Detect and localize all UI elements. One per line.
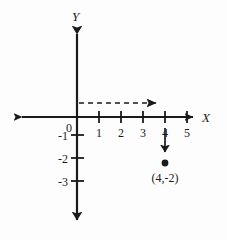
x-axis-label: X bbox=[201, 110, 211, 125]
y-tick-label-minus3: -3 bbox=[58, 175, 68, 189]
y-axis-label: Y bbox=[72, 9, 81, 24]
data-point-label: (4,-2) bbox=[152, 171, 179, 185]
origin-label: 0 bbox=[66, 121, 72, 135]
coordinate-plane-svg: 1 2 3 4 5 -1 -2 -3 0 X Y (4,-2) bbox=[0, 0, 227, 240]
coordinate-plane-figure: 1 2 3 4 5 -1 -2 -3 0 X Y (4,-2) bbox=[0, 0, 227, 240]
data-point-marker bbox=[162, 160, 169, 167]
x-tick-label-1: 1 bbox=[96, 126, 102, 140]
x-tick-label-3: 3 bbox=[140, 126, 146, 140]
y-tick-label-minus2: -2 bbox=[58, 152, 68, 166]
x-tick-label-2: 2 bbox=[118, 126, 124, 140]
x-tick-label-5: 5 bbox=[184, 126, 190, 140]
